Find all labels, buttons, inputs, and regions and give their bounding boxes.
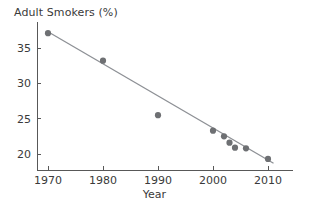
- x-tick-label: 1970: [34, 174, 62, 187]
- y-tick-label: 35: [17, 42, 31, 55]
- x-tick-group: 19701980199020002010: [34, 166, 282, 187]
- y-axis: 20253035: [17, 22, 41, 170]
- data-point: [45, 30, 51, 36]
- data-point: [232, 145, 238, 151]
- data-point: [243, 145, 249, 151]
- x-tick-label: 1980: [89, 174, 117, 187]
- y-tick-label: 25: [17, 113, 31, 126]
- x-axis: 19701980199020002010: [34, 166, 293, 187]
- x-tick-label: 1990: [144, 174, 172, 187]
- y-tick-label: 30: [17, 77, 31, 90]
- data-point: [265, 156, 271, 162]
- data-point: [100, 58, 106, 64]
- trend-line: [48, 32, 274, 163]
- data-point: [226, 140, 232, 146]
- x-tick-label: 2010: [254, 174, 282, 187]
- data-point: [210, 128, 216, 134]
- data-point: [155, 112, 161, 118]
- data-point: [221, 133, 227, 139]
- chart-screenshot: Adult Smokers (%) 20253035 1970198019902…: [0, 0, 309, 213]
- x-axis-title: Year: [0, 188, 309, 201]
- y-tick-label: 20: [17, 148, 31, 161]
- x-tick-label: 2000: [199, 174, 227, 187]
- scatter-plot: 20253035 19701980199020002010: [0, 0, 309, 213]
